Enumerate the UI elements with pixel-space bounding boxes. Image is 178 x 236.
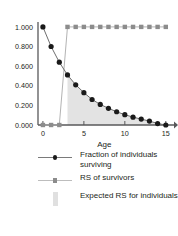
chart-svg: 0.0000.2000.4000.6000.8001.000 051015 Ag… [0,0,178,150]
fraction-surviving-marker [155,121,160,126]
legend-key-rs-of-survivors [36,174,74,187]
y-axis-tick-label: 0.200 [15,101,33,110]
rs-of-survivors-marker [90,25,94,29]
rs-of-survivors-marker [139,25,143,29]
fraction-surviving-marker [98,102,103,107]
rs-of-survivors-marker [131,25,135,29]
legend-label-rs-of-survivors: RS of survivors [74,173,134,183]
expected-rs-area [67,75,165,125]
circle-marker-icon [53,155,58,160]
rs-of-survivors-marker [106,25,110,29]
fraction-surviving-marker [65,72,70,77]
fraction-surviving-marker [49,44,54,49]
legend-label-expected-rs: Expected RS for individuals [74,191,178,201]
plot-area: 0.0000.2000.4000.6000.8001.000 051015 Ag… [0,0,178,150]
fraction-surviving-marker [81,90,86,95]
fraction-surviving-marker [163,122,168,127]
rs-of-survivors-marker [65,25,69,29]
fraction-surviving-marker [122,112,127,117]
y-axis-tick-label: 0.800 [15,42,33,51]
x-axis-tick-labels: 051015 [41,129,170,138]
fraction-surviving-marker [57,60,62,65]
area-swatch-icon [53,192,58,206]
chart-legend: Fraction of individuals surviving RS of … [0,150,178,236]
x-axis-tick-label: 10 [121,129,129,138]
legend-label-fraction-surviving: Fraction of individuals surviving [74,150,178,170]
legend-key-expected-rs [36,192,74,205]
x-axis-title: Age [97,140,112,149]
legend-key-fraction-surviving [36,151,74,164]
y-axis-tick-labels: 0.0000.2000.4000.6000.8001.000 [15,23,33,130]
figure-survival-rs-chart: 0.0000.2000.4000.6000.8001.000 051015 Ag… [0,0,178,236]
legend-item-expected-rs: Expected RS for individuals [0,191,178,205]
fraction-surviving-marker [106,106,111,111]
x-axis-tick-label: 15 [162,129,170,138]
fraction-surviving-marker [73,82,78,87]
fraction-surviving-marker [114,109,119,114]
rs-of-survivors-marker [155,25,159,29]
rs-of-survivors-marker [114,25,118,29]
fraction-surviving-marker [139,117,144,122]
rs-of-survivors-marker [73,25,77,29]
rs-of-survivors-marker [49,123,53,127]
rs-of-survivors-marker [82,25,86,29]
y-axis-tick-label: 0.400 [15,81,33,90]
rs-of-survivors-marker [98,25,102,29]
expected-rs-fill [67,75,165,125]
x-axis-arrow-icon [174,122,178,129]
y-axis-tick-label: 0.600 [15,62,33,71]
x-axis-tick-label: 0 [41,129,45,138]
legend-item-fraction-surviving: Fraction of individuals surviving [0,150,178,170]
rs-of-survivors-marker [57,123,61,127]
x-axis-tick-label: 5 [82,129,86,138]
fraction-surviving-marker [130,115,135,120]
y-axis-tick-label: 0.000 [15,121,33,130]
fraction-surviving-marker [40,24,45,29]
fraction-surviving-marker [89,97,94,102]
square-marker-icon [53,178,58,183]
rs-of-survivors-marker [164,25,168,29]
fraction-surviving-marker [147,118,152,123]
rs-of-survivors-marker [123,25,127,29]
y-axis-tick-label: 1.000 [15,23,33,32]
rs-of-survivors-marker [41,123,45,127]
rs-of-survivors-marker [147,25,151,29]
legend-item-rs-of-survivors: RS of survivors [0,173,178,187]
